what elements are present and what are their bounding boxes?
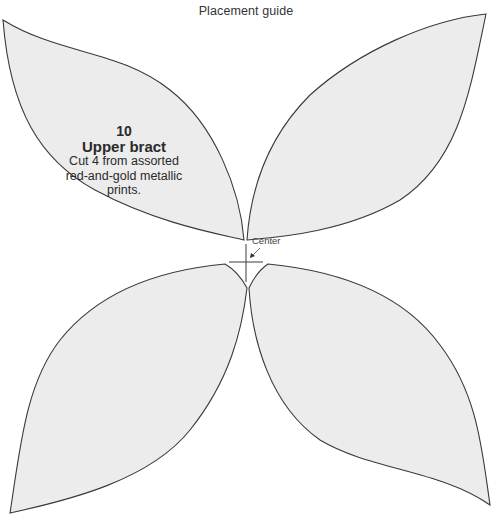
bract-placement-diagram [0,0,492,517]
piece-label: 10 Upper bract Cut 4 from assorted red-a… [64,124,184,198]
piece-instructions: Cut 4 from assorted red-and-gold metalli… [64,154,184,198]
petal-lower-right [249,264,490,505]
piece-name: Upper bract [64,139,184,154]
petal-upper-right [247,14,486,240]
piece-number: 10 [64,124,184,139]
petal-lower-left [10,264,247,513]
center-label: Center [252,235,281,246]
